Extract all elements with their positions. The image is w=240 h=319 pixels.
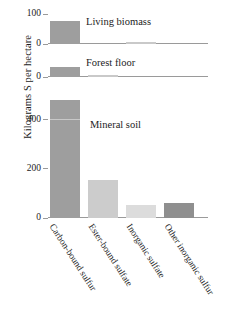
panel-caption-mineral-soil: Mineral soil [90, 118, 141, 131]
y-tick-label-0-panel2: 0 [36, 70, 41, 83]
plot-area-panel3 [48, 88, 208, 218]
bar-panel3-inorganic-sulfate [126, 205, 156, 219]
x-label-inorganic-sulfate: Inorganic sulfate [124, 222, 167, 280]
bar-panel2-ester-bound-sulfate [88, 75, 118, 77]
y-tick-label-400: 400 [27, 113, 41, 126]
panel-forest-floor: 0 Forest floor [48, 59, 208, 77]
y-tick-label-0-panel1: 0 [36, 37, 41, 50]
panel-mineral-soil: 400 200 0 Mineral soil [48, 88, 208, 218]
bar-panel2-carbon-bound-sulfur [50, 67, 80, 77]
bar-panel1-inorganic-sulfate [126, 42, 156, 45]
y-tick-label-200: 200 [27, 162, 41, 175]
bar-panel3-other-inorganic-sulfur [164, 203, 194, 218]
bar-panel1-carbon-bound-sulfur [50, 21, 80, 45]
figure-sulfur-pools: Kilograms S per hectare 100 0 Living bio… [0, 0, 240, 319]
gridline-400-overlay [50, 119, 80, 120]
panel-caption-living-biomass: Living biomass [86, 15, 151, 28]
x-axis-category-labels: Carbon-bound sulfur Ester-bound sulfate … [0, 220, 240, 319]
bar-panel3-ester-bound-sulfate [88, 180, 118, 218]
y-tick-label-100: 100 [27, 7, 41, 20]
x-label-other-inorganic-sulfur: Other inorganic sulfur [162, 222, 216, 297]
y-axis-title: Kilograms S per hectare [21, 12, 35, 162]
panel-caption-forest-floor: Forest floor [86, 56, 135, 69]
panel-living-biomass: 100 0 Living biomass [48, 14, 208, 44]
